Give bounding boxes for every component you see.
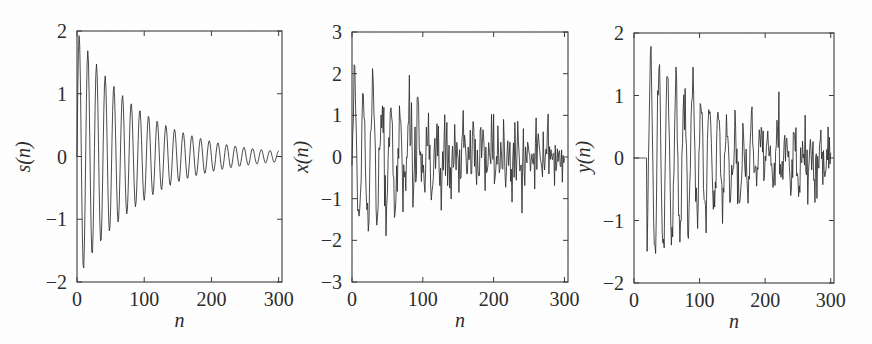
- y-tick-label: 2: [332, 63, 342, 85]
- y-tick-label: −1: [46, 208, 67, 230]
- three-panel-signal-figure: −2−10120100200300ns(n) −3−2−101230100200…: [0, 0, 872, 344]
- panel-x-plot: −3−2−101230100200300nx(n): [292, 0, 582, 344]
- y-tick-label: 0: [57, 146, 67, 168]
- y-axis-label: y(n): [574, 141, 595, 176]
- y-tick-label: 3: [332, 21, 342, 43]
- x-tick-label: 0: [347, 288, 357, 310]
- panel-x-container: −3−2−101230100200300nx(n): [292, 0, 582, 344]
- x-axis-label: n: [175, 309, 185, 331]
- x-axis-label: n: [455, 309, 465, 331]
- x-tick-label: 200: [196, 288, 226, 310]
- signal-trace: [77, 36, 279, 268]
- signal-trace: [352, 65, 564, 236]
- x-tick-label: 0: [72, 288, 82, 310]
- y-tick-label: 1: [332, 104, 342, 126]
- y-tick-label: 0: [614, 147, 624, 169]
- panel-s-plot: −2−10120100200300ns(n): [0, 0, 300, 344]
- x-tick-label: 0: [629, 289, 639, 311]
- y-tick-label: 1: [57, 83, 67, 105]
- y-tick-label: 1: [614, 85, 624, 107]
- y-axis-label: x(n): [292, 141, 313, 175]
- signal-trace: [634, 46, 831, 253]
- x-tick-label: 300: [264, 288, 294, 310]
- y-tick-label: −3: [321, 271, 342, 293]
- panel-s-container: −2−10120100200300ns(n): [0, 0, 300, 344]
- x-tick-label: 100: [129, 288, 159, 310]
- x-tick-label: 300: [816, 289, 846, 311]
- y-tick-label: −2: [603, 272, 624, 294]
- y-tick-label: −1: [603, 210, 624, 232]
- y-tick-label: −2: [46, 271, 67, 293]
- x-tick-label: 200: [750, 289, 780, 311]
- y-tick-label: −1: [321, 188, 342, 210]
- y-tick-label: 2: [57, 20, 67, 42]
- panel-y-container: −2−10120100200300ny(n): [574, 0, 872, 344]
- x-tick-label: 100: [408, 288, 438, 310]
- y-tick-label: 2: [614, 22, 624, 44]
- y-tick-label: −2: [321, 229, 342, 251]
- x-axis-label: n: [729, 310, 739, 332]
- x-tick-label: 100: [685, 289, 715, 311]
- panel-y-plot: −2−10120100200300ny(n): [574, 0, 872, 344]
- y-tick-label: 0: [332, 146, 342, 168]
- x-tick-label: 200: [479, 288, 509, 310]
- y-axis-label: s(n): [12, 141, 35, 172]
